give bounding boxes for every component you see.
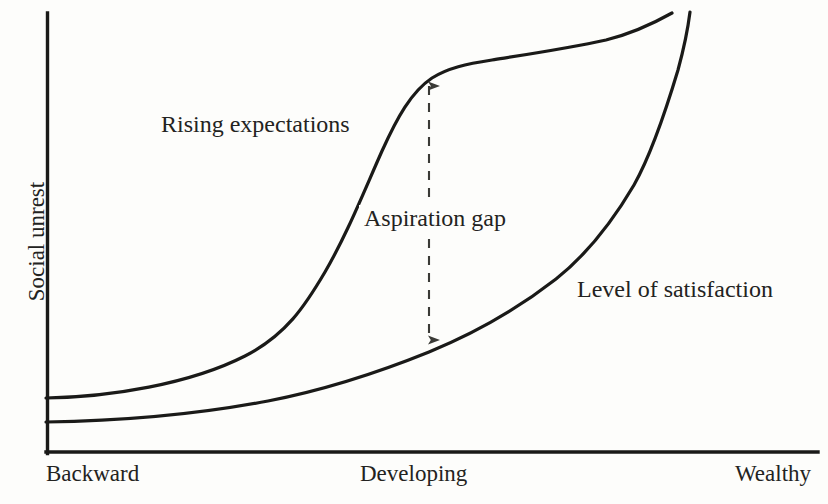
annotation-rising-expectations: Rising expectations — [161, 112, 350, 136]
annotation-aspiration-gap: Aspiration gap — [359, 205, 511, 231]
x-tick-label-backward: Backward — [46, 462, 139, 485]
x-tick-label-developing: Developing — [360, 462, 467, 485]
chart-canvas — [0, 0, 828, 504]
annotation-level-of-satisfaction: Level of satisfaction — [577, 277, 773, 301]
x-tick-label-wealthy: Wealthy — [735, 462, 811, 485]
y-axis-label: Social unrest — [25, 172, 48, 312]
chart-figure: Rising expectations Aspiration gap Level… — [0, 0, 828, 504]
